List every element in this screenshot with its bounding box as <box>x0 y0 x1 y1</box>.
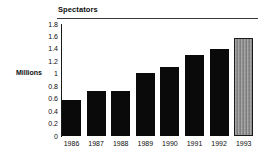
bar-group[interactable] <box>111 24 130 136</box>
y-axis-tick-label: 0.4 <box>34 108 58 115</box>
y-axis-tick-label: 0.2 <box>34 120 58 127</box>
bar-group[interactable] <box>185 24 204 136</box>
x-axis-tick-label: 1986 <box>58 140 85 148</box>
bar[interactable] <box>160 67 179 136</box>
x-axis-tick-label: 1990 <box>156 140 183 148</box>
x-axis-tick-label: 1989 <box>132 140 159 148</box>
x-axis-tick-label: 1987 <box>83 140 110 148</box>
y-axis-tick-label: 1.2 <box>34 58 58 65</box>
bar-group[interactable] <box>234 24 253 136</box>
title-underline-rule <box>57 18 258 19</box>
bar-group[interactable] <box>87 24 106 136</box>
y-axis-tick-label: 1.6 <box>34 33 58 40</box>
bar-group[interactable] <box>210 24 229 136</box>
y-axis-tick-label: 1.8 <box>34 21 58 28</box>
x-axis-tick-label: 1991 <box>181 140 208 148</box>
y-axis-tick-label: 0.6 <box>34 95 58 102</box>
bar[interactable] <box>210 49 229 136</box>
bar-group[interactable] <box>136 24 155 136</box>
bar-group[interactable] <box>160 24 179 136</box>
bar[interactable] <box>185 55 204 137</box>
x-axis-tick-label: 1993 <box>230 140 257 148</box>
bar-chart-figure: Spectators Millions 1.81.61.41.210.80.60… <box>0 0 261 160</box>
y-axis-tick-label: 1 <box>34 70 58 77</box>
bar-group[interactable] <box>62 24 81 136</box>
y-axis-tick-label: 1.4 <box>34 45 58 52</box>
bar[interactable] <box>136 73 155 136</box>
x-axis-tick-label: 1988 <box>107 140 134 148</box>
x-axis-tick-label: 1992 <box>206 140 233 148</box>
chart-title: Spectators <box>58 5 98 14</box>
bar[interactable] <box>111 91 130 136</box>
y-axis-tick-labels: 1.81.61.41.210.80.60.40.20 <box>34 0 58 160</box>
bar[interactable] <box>87 91 106 136</box>
y-axis-tick-label: 0 <box>34 133 58 140</box>
bar[interactable] <box>234 38 253 136</box>
bar[interactable] <box>62 100 81 136</box>
y-axis-tick-label: 0.8 <box>34 83 58 90</box>
